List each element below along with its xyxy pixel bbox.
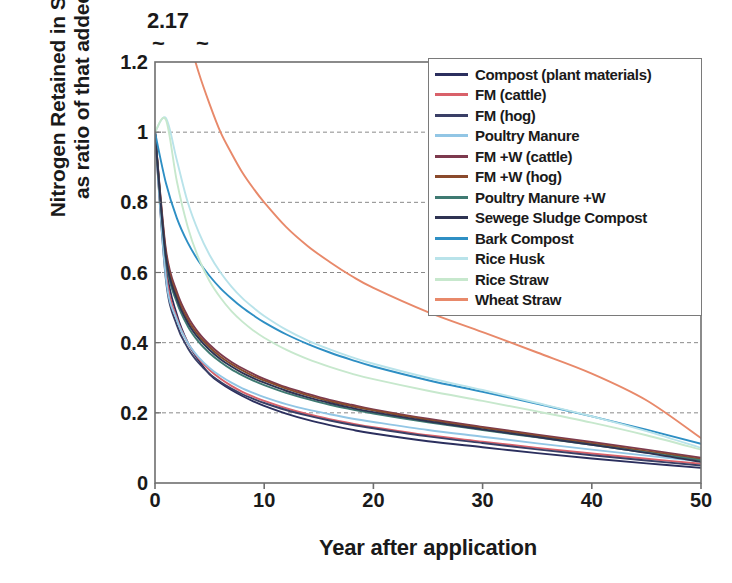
legend-item[interactable]: Sewege Sludge Compost	[435, 208, 697, 229]
legend-item[interactable]: Rice Straw	[435, 269, 697, 290]
legend-swatch-icon	[435, 73, 468, 76]
legend-item[interactable]: Compost (plant materials)	[435, 64, 697, 85]
legend-swatch-icon	[435, 114, 468, 117]
legend-item[interactable]: FM (hog)	[435, 105, 697, 126]
legend-item-label: FM +W (cattle)	[475, 148, 572, 165]
legend-swatch-icon	[435, 257, 468, 260]
legend-item-label: Wheat Straw	[475, 291, 561, 308]
legend-swatch-icon	[435, 237, 468, 240]
legend-swatch-icon	[435, 298, 468, 301]
legend-item-label: Rice Straw	[475, 271, 548, 288]
legend-swatch-icon	[435, 175, 468, 178]
legend-item[interactable]: FM +W (cattle)	[435, 146, 697, 167]
legend-item[interactable]: Bark Compost	[435, 228, 697, 249]
legend-item[interactable]: Poultry Manure	[435, 126, 697, 147]
legend-item[interactable]: Wheat Straw	[435, 290, 697, 311]
legend-item-label: Rice Husk	[475, 250, 544, 267]
legend-swatch-icon	[435, 93, 468, 96]
legend-item-label: FM +W (hog)	[475, 168, 562, 185]
chart-figure: Nitrogen Retained in Soil as ratio of th…	[0, 0, 732, 583]
legend-swatch-icon	[435, 155, 468, 158]
legend-item-label: Sewege Sludge Compost	[475, 209, 647, 226]
legend-item-label: Poultry Manure +W	[475, 189, 605, 206]
legend-item[interactable]: FM +W (hog)	[435, 167, 697, 188]
legend-item-label: Bark Compost	[475, 230, 573, 247]
legend-swatch-icon	[435, 216, 468, 219]
legend: Compost (plant materials)FM (cattle)FM (…	[428, 58, 702, 316]
legend-swatch-icon	[435, 278, 468, 281]
legend-swatch-icon	[435, 196, 468, 199]
legend-item-label: Poultry Manure	[475, 127, 579, 144]
legend-item-label: FM (hog)	[475, 107, 536, 124]
legend-item[interactable]: Poultry Manure +W	[435, 187, 697, 208]
legend-item-label: FM (cattle)	[475, 86, 546, 103]
legend-item[interactable]: Rice Husk	[435, 249, 697, 270]
legend-item-label: Compost (plant materials)	[475, 66, 651, 83]
legend-item[interactable]: FM (cattle)	[435, 85, 697, 106]
legend-swatch-icon	[435, 134, 468, 137]
